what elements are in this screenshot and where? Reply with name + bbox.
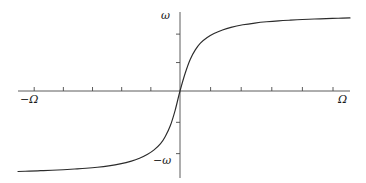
saturation-curve-line [18, 18, 350, 172]
y-axis-negative-label: −ω [153, 155, 171, 166]
x-axis-negative-label: −Ω [20, 94, 38, 105]
plot-canvas [0, 0, 366, 183]
y-axis-positive-label: ω [161, 10, 170, 21]
x-axis-group [18, 87, 350, 91]
x-axis-ticks [34, 87, 333, 91]
saturation-curve-figure: −Ω Ω ω −ω [0, 0, 366, 183]
x-axis-positive-label: Ω [338, 94, 347, 105]
